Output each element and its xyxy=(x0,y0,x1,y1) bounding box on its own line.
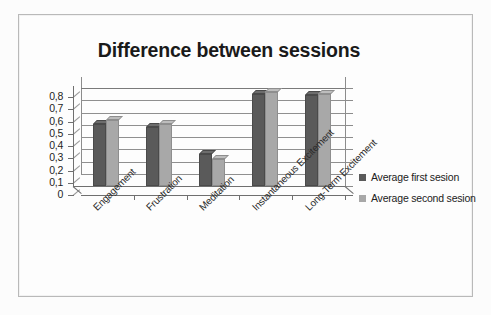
chart-frame: Difference between sessions 0,80,70,60,5… xyxy=(18,14,473,297)
bar-face xyxy=(106,120,119,186)
y-axis-tick xyxy=(68,158,74,159)
depth-axis-tick xyxy=(345,149,353,150)
depth-axis-tick xyxy=(345,113,353,114)
y-axis-tick xyxy=(68,97,74,98)
legend-label-series2: Average second sesion xyxy=(371,192,476,204)
depth-axis-tick xyxy=(345,100,353,101)
y-axis-tick xyxy=(68,195,74,196)
y-axis-label: 0 xyxy=(33,188,63,200)
bar xyxy=(252,94,265,186)
legend-item: Average first sesion xyxy=(359,171,476,183)
x-axis-tick xyxy=(345,195,346,200)
floor-right-edge xyxy=(345,186,354,194)
bar-face xyxy=(199,154,212,186)
bar-face xyxy=(93,124,106,186)
x-axis-tick xyxy=(134,195,135,200)
depth-axis-tick xyxy=(345,125,353,126)
y-axis-tick xyxy=(68,109,74,110)
bar-face xyxy=(159,124,172,186)
y-axis-tick xyxy=(68,183,74,184)
y-axis-label: 0,1 xyxy=(33,176,63,188)
x-axis-tick xyxy=(239,195,240,200)
bar-face xyxy=(146,127,159,186)
bar xyxy=(106,120,119,186)
bar xyxy=(146,127,159,186)
y-axis-tick xyxy=(68,171,74,172)
y-axis-label: 0,8 xyxy=(33,90,63,102)
plot-area: 0,80,70,60,50,40,30,20,10 xyxy=(55,77,345,197)
y-axis-tick xyxy=(68,134,74,135)
bar xyxy=(159,124,172,186)
legend-label-series1: Average first sesion xyxy=(371,171,459,183)
x-axis-tick xyxy=(292,195,293,200)
bar xyxy=(93,124,106,186)
y-axis-label: 0,3 xyxy=(33,151,63,163)
y-axis-label: 0,5 xyxy=(33,127,63,139)
y-axis-label: 0,6 xyxy=(33,115,63,127)
gridline xyxy=(81,88,345,89)
y-axis-tick xyxy=(68,122,74,123)
bar xyxy=(199,154,212,186)
chart-screenshot: Difference between sessions 0,80,70,60,5… xyxy=(0,0,491,315)
chart-legend: Average first sesion Average second sesi… xyxy=(359,171,476,213)
y-axis-label: 0,4 xyxy=(33,139,63,151)
bar-face xyxy=(265,92,278,186)
depth-axis-tick xyxy=(345,88,353,89)
bar xyxy=(265,92,278,186)
y-axis-label: 0,2 xyxy=(33,164,63,176)
chart-title: Difference between sessions xyxy=(19,39,439,62)
legend-swatch-series2 xyxy=(359,195,366,202)
y-axis-tick xyxy=(68,146,74,147)
x-axis-tick xyxy=(187,195,188,200)
legend-swatch-series1 xyxy=(359,174,366,181)
legend-item: Average second sesion xyxy=(359,192,476,204)
depth-axis-tick xyxy=(345,137,353,138)
y-axis-label: 0,7 xyxy=(33,102,63,114)
bar-face xyxy=(252,94,265,186)
